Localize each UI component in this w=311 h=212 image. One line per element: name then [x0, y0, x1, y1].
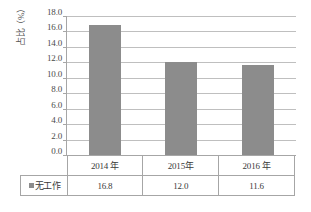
- bar: [242, 65, 274, 155]
- category-cell: 2016 年: [219, 156, 295, 176]
- bar-chart-with-data-table: 占比（%） 18.016.014.012.010.08.06.04.02.00.…: [0, 0, 311, 212]
- bar-slot: [67, 16, 143, 155]
- legend-swatch-icon: [29, 183, 34, 188]
- y-axis-tick-label: 14.0: [22, 39, 62, 48]
- plot-area: [66, 16, 295, 155]
- table-row-categories: 2014 年2015年2016 年: [21, 156, 295, 176]
- category-cell: 2015年: [143, 156, 219, 176]
- y-axis-tick-label: 8.0: [22, 85, 62, 94]
- bar-series-group: [67, 16, 296, 155]
- y-axis-tick-label: 6.0: [22, 101, 62, 110]
- bar-slot: [220, 16, 296, 155]
- y-axis-tick-label: 4.0: [22, 116, 62, 125]
- value-cell: 12.0: [143, 176, 219, 196]
- table-row-values: 无工作 16.812.011.6: [21, 176, 295, 196]
- bar-slot: [143, 16, 219, 155]
- legend-cell: 无工作: [21, 176, 68, 196]
- value-cell: 16.8: [67, 176, 143, 196]
- value-cell: 11.6: [219, 176, 295, 196]
- legend-label: 无工作: [35, 179, 61, 192]
- bar: [89, 25, 121, 155]
- table-corner-blank: [21, 156, 68, 176]
- y-axis-tick-label: 2.0: [22, 132, 62, 141]
- y-axis-tick-label: 10.0: [22, 70, 62, 79]
- data-table: 2014 年2015年2016 年 无工作 16.812.011.6: [20, 155, 295, 196]
- y-axis-tick-label: 12.0: [22, 54, 62, 63]
- y-axis-tick-labels: 18.016.014.012.010.08.06.04.02.00.0: [22, 12, 62, 156]
- y-axis-tick-label: 18.0: [22, 8, 62, 17]
- category-cell: 2014 年: [67, 156, 143, 176]
- bar: [165, 62, 197, 155]
- y-axis-tick-label: 16.0: [22, 23, 62, 32]
